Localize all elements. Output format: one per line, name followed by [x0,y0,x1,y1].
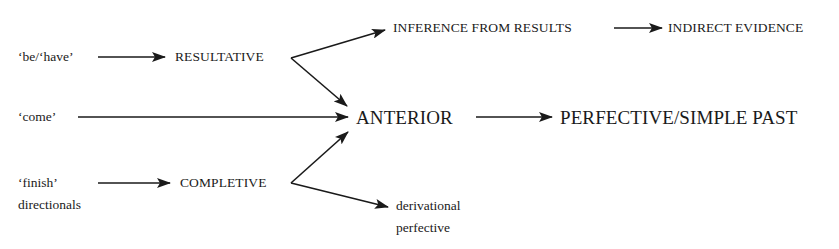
node-come: ‘come’ [18,110,56,124]
node-be-have: ‘be/‘have’ [18,50,73,64]
node-indirect-evidence: INDIRECT EVIDENCE [668,21,803,35]
node-completive: COMPLETIVE [180,176,267,190]
node-perfective-simple-past: PERFECTIVE/SIMPLE PAST [560,108,797,127]
node-inference-from-results: INFERENCE FROM RESULTS [393,21,572,35]
node-anterior: ANTERIOR [356,108,453,127]
node-derivational: derivational [396,199,460,213]
arrow-resultative-to-inference [291,30,385,58]
arrow-resultative-to-anterior [291,58,347,106]
node-resultative: RESULTATIVE [175,50,264,64]
node-finish: ‘finish’ [18,176,58,190]
node-directionals: directionals [18,198,81,212]
arrow-completive-to-anterior [291,132,348,183]
node-derivational-perfective: perfective [396,221,450,235]
arrow-completive-to-derivational [291,183,388,207]
